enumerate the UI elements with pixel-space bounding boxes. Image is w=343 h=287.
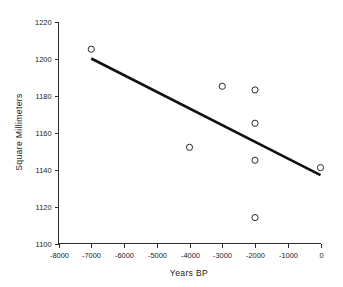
y-tick-label: 1100	[36, 240, 52, 249]
x-tick-label: 0	[319, 251, 323, 260]
y-tick-label: 1140	[36, 166, 52, 175]
data-point-marker	[252, 157, 258, 163]
y-axis-tick-labels: 1100112011401160118012001220	[35, 18, 51, 249]
data-point-marker	[186, 144, 192, 150]
data-point-marker	[252, 215, 258, 221]
x-axis-tick-labels: -8000-7000-6000-5000-4000-3000-2000-1000…	[50, 251, 324, 260]
data-points-group	[88, 46, 323, 221]
y-axis-ticks	[55, 23, 59, 245]
data-point-marker	[317, 165, 323, 171]
y-tick-label: 1200	[35, 55, 51, 64]
data-point-marker	[252, 120, 258, 126]
trend-line	[91, 59, 320, 176]
y-axis-title: Square Millimeters	[14, 93, 24, 170]
chart-container: 1100112011401160118012001220 -8000-7000-…	[0, 0, 343, 287]
x-tick-label: -4000	[181, 251, 200, 260]
y-tick-label: 1220	[35, 18, 51, 27]
x-tick-label: -7000	[82, 251, 101, 260]
data-point-marker	[252, 87, 258, 93]
data-point-marker	[88, 46, 94, 52]
y-tick-label: 1120	[36, 203, 52, 212]
x-axis-ticks	[60, 244, 322, 248]
x-axis-title: Years BP	[170, 268, 208, 278]
y-tick-label: 1160	[36, 129, 52, 138]
y-tick-label: 1180	[36, 92, 52, 101]
x-tick-label: -6000	[115, 251, 134, 260]
x-tick-label: -8000	[50, 251, 69, 260]
scatter-plot: 1100112011401160118012001220 -8000-7000-…	[0, 0, 343, 287]
x-tick-label: -1000	[279, 251, 298, 260]
x-tick-label: -3000	[213, 251, 232, 260]
x-tick-label: -5000	[148, 251, 167, 260]
x-tick-label: -2000	[246, 251, 265, 260]
data-point-marker	[219, 83, 225, 89]
